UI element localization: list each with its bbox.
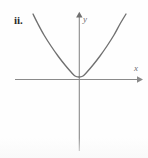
y-axis-label: y <box>83 15 87 24</box>
x-axis-arrowhead-icon <box>137 76 143 83</box>
y-axis-group <box>76 12 82 151</box>
figure-container: ii. y x <box>0 0 148 158</box>
figure-item-label: ii. <box>14 15 23 26</box>
x-axis-label: x <box>134 64 138 73</box>
y-axis-arrowhead-icon <box>76 12 82 18</box>
